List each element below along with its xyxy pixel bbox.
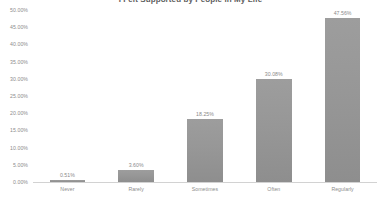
bar-column: 3.60% [118,10,154,182]
bar [325,18,361,182]
x-axis-tick-label: Regularly [308,186,377,192]
bar-column: 47.56% [325,10,361,182]
y-axis-tick-label: 0.00% [13,179,28,185]
bar-column: 30.08% [256,10,292,182]
y-axis-tick-label: 5.00% [13,162,28,168]
y-axis-tick-label: 40.00% [10,41,28,47]
bar [256,79,292,182]
bar-chart: I Felt Supported by People in My Life 0.… [0,0,381,198]
bar-value-label: 3.60% [118,162,154,168]
x-axis-tick-label: Rarely [102,186,171,192]
bar-value-label: 18.25% [187,111,223,117]
chart-title: I Felt Supported by People in My Life [0,0,381,4]
y-axis-tick-label: 20.00% [10,110,28,116]
y-axis-tick-label: 35.00% [10,59,28,65]
x-axis: NeverRarelySometimesOftenRegularly [33,186,377,198]
bar [118,170,154,182]
x-axis-tick-label: Never [33,186,102,192]
y-axis-tick-label: 30.00% [10,76,28,82]
y-axis-tick-label: 10.00% [10,145,28,151]
y-axis: 0.00%5.00%10.00%15.00%20.00%25.00%30.00%… [0,10,30,182]
bar-column: 18.25% [187,10,223,182]
bar-column: 0.51% [50,10,86,182]
bar [187,119,223,182]
bar-value-label: 0.51% [50,172,86,178]
axis-baseline [33,182,377,183]
y-axis-tick-label: 25.00% [10,93,28,99]
y-axis-tick-label: 15.00% [10,127,28,133]
bar-value-label: 47.56% [325,10,361,16]
y-axis-tick-label: 50.00% [10,7,28,13]
x-axis-tick-label: Sometimes [171,186,240,192]
plot-area: 0.51%3.60%18.25%30.08%47.56% [33,10,377,182]
x-axis-tick-label: Often [239,186,308,192]
y-axis-tick-label: 45.00% [10,24,28,30]
bar-value-label: 30.08% [256,71,292,77]
